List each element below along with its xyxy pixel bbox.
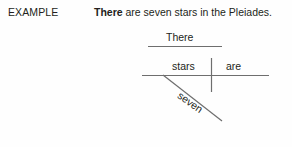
sentence-diagram: There stars are seven: [0, 0, 292, 147]
diagram-word-expletive: There: [166, 31, 193, 43]
diagram-word-subject: stars: [172, 60, 195, 72]
diagram-lines-svg: [0, 0, 292, 147]
screenshot-canvas: EXAMPLE There are seven stars in the Ple…: [0, 0, 292, 147]
diagram-word-verb: are: [226, 60, 241, 72]
